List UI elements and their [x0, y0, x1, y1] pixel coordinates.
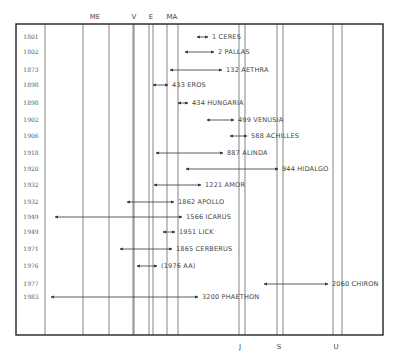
planet-label: U — [333, 343, 338, 351]
discovery-year: 1898 — [23, 81, 38, 88]
asteroid-row: 1898433 EROS — [23, 81, 206, 89]
asteroid-name: 1865 CERBERUS — [176, 245, 232, 253]
discovery-year: 1802 — [23, 48, 38, 55]
frame-border — [16, 24, 383, 335]
asteroid-name: 3200 PHAETHON — [202, 293, 259, 301]
asteroid-name: (1976 AA) — [161, 262, 196, 270]
discovery-year: 1902 — [23, 116, 38, 123]
asteroid-name: 499 VENUSIA — [238, 116, 284, 124]
asteroid-row: 1920944 HIDALGO — [23, 165, 328, 173]
asteroid-name: 588 ACHILLES — [251, 132, 299, 140]
discovery-year: 1906 — [23, 132, 38, 139]
planet-label: ME — [90, 13, 100, 21]
discovery-year: 1920 — [23, 165, 38, 172]
asteroid-row: 1976(1976 AA) — [23, 262, 195, 270]
asteroid-row: 19772060 CHIRON — [23, 280, 378, 288]
asteroid-name: 1221 AMOR — [205, 181, 245, 189]
discovery-year: 1971 — [23, 245, 38, 252]
asteroid-name: 1566 ICARUS — [186, 213, 231, 221]
asteroid-row: 19833200 PHAETHON — [23, 293, 259, 301]
planet-label: E — [149, 13, 153, 21]
planet-orbit-lines — [83, 24, 342, 335]
discovery-year: 1949 — [23, 213, 38, 220]
discovery-year: 1977 — [23, 280, 38, 287]
discovery-year: 1898 — [23, 99, 38, 106]
discovery-year: 1932 — [23, 181, 38, 188]
asteroid-name: 434 HUNGARIA — [192, 99, 244, 107]
asteroid-row: 18022 PALLAS — [23, 48, 249, 56]
discovery-year: 1983 — [23, 293, 38, 300]
asteroid-name: 944 HIDALGO — [282, 165, 329, 173]
asteroid-name: 887 ALINDA — [227, 149, 268, 157]
asteroid-row: 19491566 ICARUS — [23, 213, 231, 221]
asteroid-row: 1906588 ACHILLES — [23, 132, 299, 140]
discovery-year: 1949 — [23, 228, 38, 235]
asteroid-row: 19711865 CERBERUS — [23, 245, 232, 253]
asteroid-name: 1951 LICK — [179, 228, 214, 236]
planet-label: J — [238, 343, 241, 351]
discovery-year: 1976 — [23, 262, 38, 269]
asteroid-row: 1918887 ALINDA — [23, 149, 268, 157]
asteroid-row: 19321862 APOLLO — [23, 198, 224, 206]
asteroid-name: 1 CERES — [212, 33, 241, 41]
asteroid-name: 132 AETHRA — [226, 66, 269, 74]
diagram-frame — [16, 24, 383, 335]
asteroid-row: 1902499 VENUSIA — [23, 116, 283, 124]
asteroid-name: 2060 CHIRON — [332, 280, 379, 288]
asteroid-row: 19491951 LICK — [23, 228, 214, 236]
asteroid-row: 1873132 AETHRA — [23, 66, 269, 74]
asteroid-rows: 18011 CERES18022 PALLAS1873132 AETHRA189… — [23, 33, 378, 301]
asteroid-name: 433 EROS — [172, 81, 206, 89]
asteroid-row: 19321221 AMOR — [23, 181, 245, 189]
asteroid-row: 18011 CERES — [23, 33, 241, 41]
discovery-year: 1932 — [23, 198, 38, 205]
discovery-year: 1873 — [23, 66, 38, 73]
asteroid-name: 2 PALLAS — [218, 48, 250, 56]
planet-label: MA — [167, 13, 178, 21]
discovery-year: 1801 — [23, 33, 38, 40]
discovery-year: 1918 — [23, 149, 38, 156]
asteroid-name: 1862 APOLLO — [178, 198, 224, 206]
asteroid-orbit-diagram: MEVEMAJSU 18011 CERES18022 PALLAS1873132… — [0, 0, 394, 358]
planet-label: V — [132, 13, 137, 21]
planet-label: S — [277, 343, 282, 351]
